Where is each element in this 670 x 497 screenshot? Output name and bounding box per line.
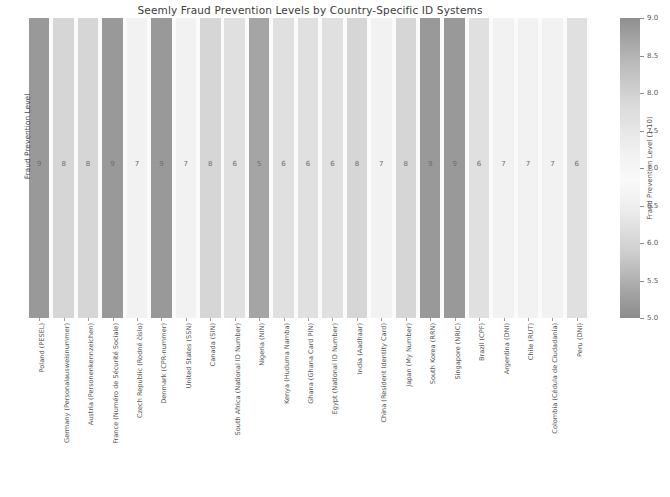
bar-slot: 8 xyxy=(198,18,222,318)
x-tick-mark xyxy=(308,318,309,321)
y-axis-label: Fraud Prevention Level xyxy=(23,72,32,202)
bar-value-label: 6 xyxy=(467,161,491,168)
x-tick-label: Czech Republic (Rodné číslo) xyxy=(137,323,144,418)
x-tick: Kenya (Huduma Namba) xyxy=(271,318,295,493)
bar-value-label: 9 xyxy=(149,161,173,168)
x-tick-label: Chile (RUT) xyxy=(528,323,535,360)
x-tick-label: Kenya (Huduma Namba) xyxy=(284,323,291,404)
bar-slot: 7 xyxy=(125,18,149,318)
x-tick-label: Canada (SIN) xyxy=(210,323,217,366)
x-axis-tick-labels: Poland (PESEL)Germany (Personalausweisnu… xyxy=(27,318,589,493)
bar-value-label: 9 xyxy=(100,161,124,168)
bar[interactable] xyxy=(444,18,465,318)
x-tick: Peru (DNI) xyxy=(565,318,589,493)
x-tick-mark xyxy=(137,318,138,321)
bar-value-label: 8 xyxy=(345,161,369,168)
bar-value-label: 7 xyxy=(491,161,515,168)
x-tick: Poland (PESEL) xyxy=(27,318,51,493)
bar[interactable] xyxy=(127,18,148,318)
bar-value-label: 8 xyxy=(76,161,100,168)
colorbar-tick-label: 7.0 xyxy=(647,165,658,172)
colorbar-tick-label: 6.5 xyxy=(647,202,658,209)
bar-slot: 7 xyxy=(491,18,515,318)
bar[interactable] xyxy=(567,18,588,318)
colorbar-tick-mark xyxy=(640,93,644,94)
bar-slot: 9 xyxy=(100,18,124,318)
bar-value-label: 8 xyxy=(394,161,418,168)
bar[interactable] xyxy=(469,18,490,318)
x-tick-label: China (Resident Identity Card) xyxy=(381,323,388,423)
bar-slot: 6 xyxy=(467,18,491,318)
x-tick: Czech Republic (Rodné číslo) xyxy=(125,318,149,493)
bar-slot: 7 xyxy=(540,18,564,318)
bar[interactable] xyxy=(542,18,563,318)
colorbar-tick-label: 5.5 xyxy=(647,277,658,284)
x-tick-mark xyxy=(64,318,65,321)
bar[interactable] xyxy=(249,18,270,318)
bar-slot: 7 xyxy=(369,18,393,318)
bar[interactable] xyxy=(102,18,123,318)
bar-slot: 6 xyxy=(565,18,589,318)
bar[interactable] xyxy=(518,18,539,318)
colorbar: Fraud Prevention Level (1-10) 9.08.58.07… xyxy=(620,18,670,318)
bar[interactable] xyxy=(322,18,343,318)
bar-slot: 5 xyxy=(247,18,271,318)
x-tick: India (Aadhaar) xyxy=(345,318,369,493)
bar-value-label: 8 xyxy=(51,161,75,168)
x-tick-label: Austria (Personenkennzeichen) xyxy=(88,323,95,425)
bar[interactable] xyxy=(371,18,392,318)
bar-slot: 6 xyxy=(271,18,295,318)
bar-value-label: 5 xyxy=(247,161,271,168)
x-tick-mark xyxy=(406,318,407,321)
bar-value-label: 6 xyxy=(271,161,295,168)
colorbar-tick-mark xyxy=(640,318,644,319)
x-tick: Japan (My Number) xyxy=(394,318,418,493)
bar[interactable] xyxy=(151,18,172,318)
x-tick-mark xyxy=(210,318,211,321)
x-tick: Germany (Personalausweisnummer) xyxy=(51,318,75,493)
bar[interactable] xyxy=(347,18,368,318)
x-tick-mark xyxy=(577,318,578,321)
bar[interactable] xyxy=(200,18,221,318)
x-tick-mark xyxy=(552,318,553,321)
x-tick: France (Numéro de Sécurité Sociale) xyxy=(100,318,124,493)
bar[interactable] xyxy=(29,18,50,318)
bar[interactable] xyxy=(53,18,74,318)
bar-value-label: 6 xyxy=(565,161,589,168)
bar[interactable] xyxy=(273,18,294,318)
bar-slot: 6 xyxy=(223,18,247,318)
x-tick: Colombia (Cédula de Ciudadanía) xyxy=(540,318,564,493)
bar-value-label: 9 xyxy=(418,161,442,168)
bar[interactable] xyxy=(420,18,441,318)
x-tick-mark xyxy=(479,318,480,321)
x-tick-mark xyxy=(332,318,333,321)
bar[interactable] xyxy=(298,18,319,318)
x-tick: Egypt (National ID Number) xyxy=(320,318,344,493)
colorbar-tick-mark xyxy=(640,206,644,207)
x-tick-mark xyxy=(39,318,40,321)
bar[interactable] xyxy=(396,18,417,318)
x-tick-label: South Korea (RRN) xyxy=(430,323,437,384)
x-tick-mark xyxy=(113,318,114,321)
x-tick-label: Peru (DNI) xyxy=(577,323,584,357)
x-tick-mark xyxy=(381,318,382,321)
x-tick-label: Colombia (Cédula de Ciudadanía) xyxy=(552,323,559,434)
x-tick-mark xyxy=(235,318,236,321)
bar-value-label: 7 xyxy=(174,161,198,168)
colorbar-tick-mark xyxy=(640,18,644,19)
bar-value-label: 7 xyxy=(540,161,564,168)
x-tick: Denmark (CPR-nummer) xyxy=(149,318,173,493)
x-tick: China (Resident Identity Card) xyxy=(369,318,393,493)
colorbar-tick-mark xyxy=(640,131,644,132)
x-tick: Canada (SIN) xyxy=(198,318,222,493)
colorbar-gradient xyxy=(620,18,640,318)
bar[interactable] xyxy=(78,18,99,318)
bar[interactable] xyxy=(493,18,514,318)
bar[interactable] xyxy=(176,18,197,318)
x-tick-label: Egypt (National ID Number) xyxy=(332,323,339,414)
bar-value-label: 8 xyxy=(198,161,222,168)
bar[interactable] xyxy=(224,18,245,318)
bar-slot: 8 xyxy=(345,18,369,318)
bar-slot: 9 xyxy=(418,18,442,318)
x-tick-label: Poland (PESEL) xyxy=(39,323,46,372)
